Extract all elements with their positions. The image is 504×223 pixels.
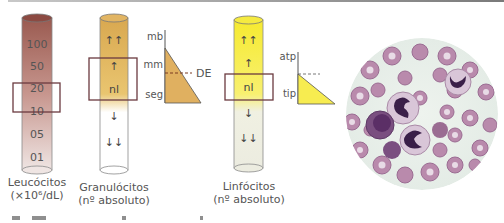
lymphocytes-label-line2: (nº absoluto) (213, 193, 285, 206)
granulocyte-maturation-chart: mb mm seg DE (144, 30, 212, 103)
lymph-scale-low2: ↓↓ (239, 132, 257, 145)
neutrophil (400, 125, 430, 155)
label-mb: mb (147, 31, 163, 42)
clipped-caption-fragment (122, 216, 126, 220)
lymphocytes-label: Linfócitos (nº absoluto) (213, 180, 285, 206)
granulocytes-label-line2: (nº absoluto) (78, 194, 150, 207)
leuk-scale-01: 01 (30, 151, 44, 164)
label-de: DE (196, 67, 211, 80)
leuk-scale-20: 20 (30, 82, 44, 95)
gran-scale-low2: ↓↓ (105, 136, 123, 149)
lymphocytes-label-line1: Linfócitos (213, 180, 285, 193)
lymph-scale-low: ↓ (244, 107, 253, 120)
gran-scale-low: ↓ (109, 110, 118, 123)
leuk-scale-05: 05 (30, 128, 44, 141)
leukocytes-label-line2: (×10⁶/dL) (2, 189, 72, 202)
label-tip: tip (283, 88, 296, 99)
granulocytes-label-line1: Granulócitos (78, 181, 150, 194)
granulocyte-cylinder: ↑↑ ↑ nl ↓ ↓↓ (89, 14, 137, 174)
leuk-scale-100: 100 (27, 38, 48, 51)
leukocyte-cylinder: 100 50 20 10 05 01 (13, 14, 60, 174)
gran-scale-normal: nl (109, 83, 119, 96)
lymphocyte-cylinder: ↑↑ ↑ nl ↓ ↓↓ (225, 16, 273, 172)
lymph-scale-high: ↑ (244, 57, 253, 70)
leukocytes-label-line1: Leucócitos (2, 176, 72, 189)
gran-scale-high2: ↑↑ (105, 34, 123, 47)
leuk-scale-50: 50 (30, 60, 44, 73)
lymphocyte-cell (366, 111, 394, 139)
neutrophil (445, 69, 471, 95)
label-mm: mm (144, 59, 163, 70)
label-seg: seg (145, 89, 163, 100)
lymphocyte-typing-chart: atp tip (280, 51, 335, 104)
clipped-caption-fragment (12, 216, 20, 220)
clipped-caption-fragment (32, 216, 46, 220)
granulocytes-label: Granulócitos (nº absoluto) (78, 181, 150, 207)
blood-smear-micrograph (344, 38, 498, 190)
gran-scale-high: ↑ (109, 60, 118, 73)
lymph-scale-normal: nl (243, 81, 253, 94)
clipped-caption-fragment (200, 216, 203, 220)
leukocytes-label: Leucócitos (×10⁶/dL) (2, 176, 72, 202)
label-atp: atp (280, 51, 296, 62)
lymph-scale-high2: ↑↑ (239, 34, 257, 47)
